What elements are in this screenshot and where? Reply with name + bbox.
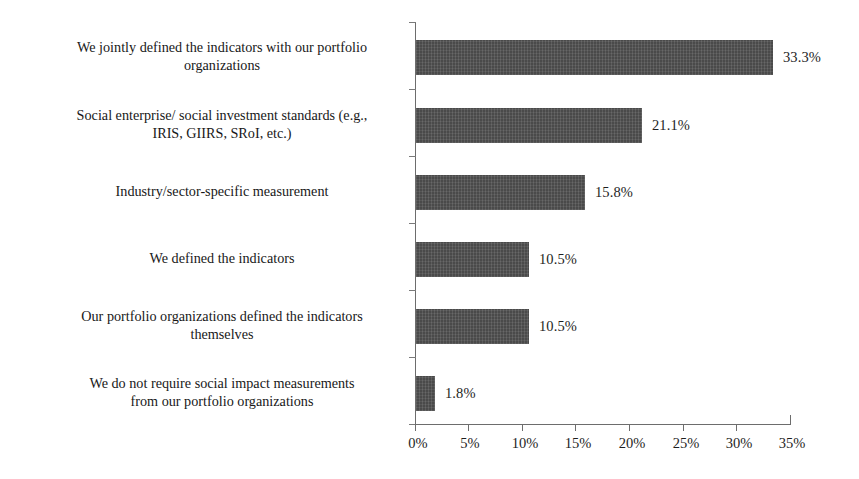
x-tick-label-5: 25%	[673, 436, 700, 451]
bar-2	[416, 175, 585, 210]
category-label-3-line-0: We defined the indicators	[36, 250, 408, 268]
x-tick-label-1: 5%	[460, 436, 479, 451]
bar-value-label-0: 33.3%	[783, 50, 821, 65]
x-tick-label-4: 20%	[619, 436, 646, 451]
category-label-0: We jointly defined the indicators with o…	[36, 39, 408, 74]
category-label-1-line-1: IRIS, GIIRS, SRoI, etc.)	[36, 125, 408, 143]
bar-value-label-2: 15.8%	[595, 185, 633, 200]
category-label-5-line-0: We do not require social impact measurem…	[36, 375, 408, 393]
category-label-5: We do not require social impact measurem…	[36, 375, 408, 410]
value-tick-20	[629, 424, 630, 431]
category-label-0-line-0: We jointly defined the indicators with o…	[36, 39, 408, 57]
x-tick-label-6: 30%	[726, 436, 753, 451]
category-label-4-line-0: Our portfolio organizations defined the …	[36, 308, 408, 326]
bar-value-label-4: 10.5%	[539, 319, 577, 334]
category-label-2: Industry/sector-specific measurement	[36, 183, 408, 201]
bar-value-label-1: 21.1%	[652, 118, 690, 133]
value-tick-10	[522, 424, 523, 431]
bar-value-label-5: 1.8%	[445, 386, 476, 401]
category-tick	[409, 156, 416, 157]
value-tick-25	[683, 424, 684, 431]
category-label-2-line-0: Industry/sector-specific measurement	[36, 183, 408, 201]
category-tick	[409, 357, 416, 358]
category-label-5-line-1: from our portfolio organizations	[36, 393, 408, 411]
x-tick-label-2: 10%	[512, 436, 539, 451]
bar-value-label-3: 10.5%	[539, 252, 577, 267]
bar-0	[416, 40, 773, 75]
bar-chart: 33.3% 21.1% 15.8% 10.5% 10.5% 1.8% We jo…	[0, 0, 859, 479]
category-label-4: Our portfolio organizations defined the …	[36, 308, 408, 343]
value-tick-5	[468, 424, 469, 431]
category-tick	[409, 223, 416, 224]
bar-3	[416, 242, 529, 277]
category-label-3: We defined the indicators	[36, 250, 408, 268]
category-tick	[409, 22, 416, 23]
value-tick-0	[415, 418, 416, 431]
bar-4	[416, 309, 529, 344]
bar-5	[416, 376, 435, 411]
category-tick	[409, 290, 416, 291]
value-tick-15	[575, 424, 576, 431]
bar-1	[416, 108, 642, 143]
category-label-1: Social enterprise/ social investment sta…	[36, 107, 408, 142]
x-tick-label-0: 0%	[408, 436, 427, 451]
value-tick-30	[736, 424, 737, 431]
category-label-1-line-0: Social enterprise/ social investment sta…	[36, 107, 408, 125]
category-tick	[409, 89, 416, 90]
value-tick-35	[790, 415, 791, 425]
value-axis-line	[409, 424, 791, 425]
category-label-0-line-1: organizations	[36, 57, 408, 75]
category-label-4-line-1: themselves	[36, 326, 408, 344]
x-tick-label-3: 15%	[565, 436, 592, 451]
x-tick-label-7: 35%	[779, 436, 806, 451]
